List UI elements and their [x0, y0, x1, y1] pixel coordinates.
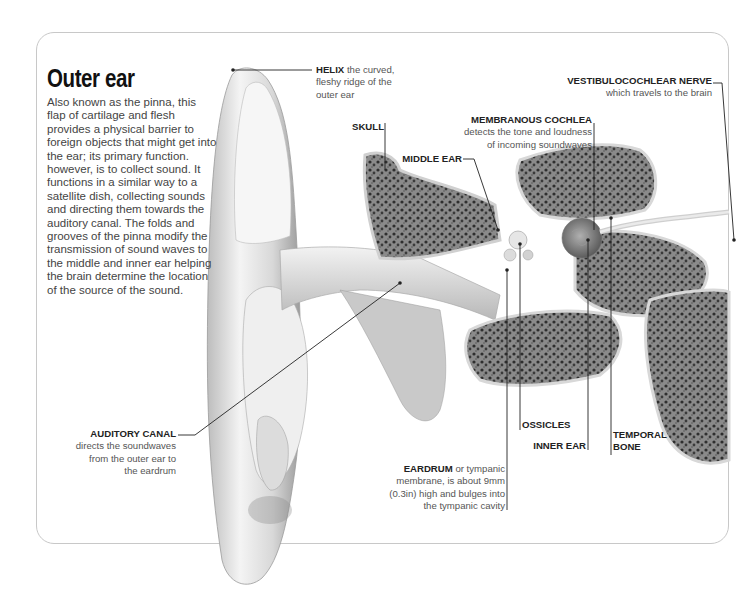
label-skull: SKULL — [340, 121, 384, 133]
cochlea-shape — [562, 218, 602, 258]
label-inner-ear: INNER EAR — [530, 440, 586, 452]
label-eardrum: EARDRUM or tympanic membrane, is about 9… — [360, 463, 505, 513]
page-title: Outer ear — [47, 64, 134, 93]
ossicles-shape — [504, 231, 533, 261]
label-membranous-cochlea: MEMBRANOUS COCHLEA detects the tone and … — [430, 114, 592, 151]
label-auditory-canal: AUDITORY CANAL directs the soundwaves fr… — [60, 428, 176, 478]
intro-paragraph: Also known as the pinna, this flap of ca… — [47, 96, 217, 297]
label-ossicles: OSSICLES — [522, 419, 571, 431]
pinna-shape — [207, 68, 307, 584]
label-middle-ear: MIDDLE EAR — [400, 153, 462, 165]
label-vestibulocochlear-nerve: VESTIBULOCOCHLEAR NERVE which travels to… — [560, 75, 712, 100]
label-helix: HELIX the curved, fleshy ridge of the ou… — [316, 64, 426, 101]
label-temporal-bone: TEMPORAL BONE — [613, 429, 667, 454]
